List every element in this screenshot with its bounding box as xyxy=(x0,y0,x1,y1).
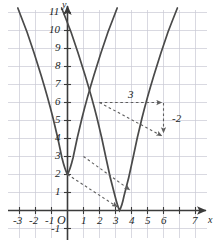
annotation-horizontal-shift: 3 xyxy=(128,89,134,100)
x-tick-neg1: -1 xyxy=(45,215,54,226)
axis-y xyxy=(64,6,71,240)
y-tick-7: 7 xyxy=(55,78,61,89)
y-tick-1: 1 xyxy=(55,186,61,197)
y-tick-11: 11 xyxy=(49,6,59,17)
x-tick-6: 6 xyxy=(161,215,167,226)
y-tick-9: 9 xyxy=(55,42,61,53)
y-tick-3: 3 xyxy=(55,150,61,161)
y-tick-2: 2 xyxy=(55,168,61,179)
y-tick-6: 6 xyxy=(55,96,61,107)
y-tick-10: 10 xyxy=(49,24,60,35)
x-tick-2: 2 xyxy=(97,215,103,226)
x-axis-label: x xyxy=(208,215,212,225)
annotation-vertical-shift: -2 xyxy=(172,113,181,124)
x-tick-3: 3 xyxy=(113,215,119,226)
x-tick-1: 1 xyxy=(81,215,87,226)
y-tick-5: 5 xyxy=(55,114,61,125)
x-tick-4: 4 xyxy=(129,215,135,226)
axis-x xyxy=(8,207,206,214)
origin-label: O xyxy=(57,214,66,226)
y-axis-label: y xyxy=(62,0,66,10)
y-tick-8: 8 xyxy=(55,60,61,71)
grid-lines xyxy=(8,10,207,238)
x-tick-5: 5 xyxy=(145,215,151,226)
graph-figure: 11 10 9 8 7 6 5 4 3 2 1 -1 -3 -2 -1 1 2 … xyxy=(0,0,221,249)
arrow-vertex-map-upper xyxy=(100,103,163,137)
x-tick-neg3: -3 xyxy=(13,215,22,226)
x-tick-neg2: -2 xyxy=(29,215,38,226)
x-tick-7: 7 xyxy=(192,215,198,226)
coordinate-plot xyxy=(0,0,221,249)
y-tick-4: 4 xyxy=(55,132,61,143)
curve-parabola-right xyxy=(62,8,178,211)
